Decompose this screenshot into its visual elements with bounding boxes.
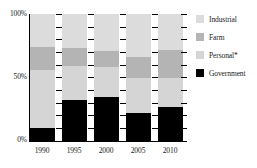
legend-swatch-industrial xyxy=(196,15,204,23)
gap-tick-4-8 xyxy=(181,115,187,116)
gap-tick-1-0 xyxy=(88,14,94,15)
legend-item-personal: Personal* xyxy=(196,46,257,64)
y-tick-label-50: 50% xyxy=(14,73,27,81)
gap-tick-3-0 xyxy=(152,14,158,15)
gap-tick-1-5 xyxy=(88,77,94,78)
legend-item-farm: Farm xyxy=(196,28,257,46)
gap-tick-2-2 xyxy=(120,39,126,40)
bar-segment-2010-personal xyxy=(158,78,183,107)
bar-segment-2005-farm xyxy=(126,57,151,77)
gap-tick-1-3 xyxy=(88,52,94,53)
y-axis-labels: 100% 50% 0% xyxy=(0,0,28,168)
bar-segment-1990-personal xyxy=(30,70,55,128)
gap-tick-4-1 xyxy=(181,27,187,28)
gap-tick-0-7 xyxy=(56,103,62,104)
gap-tick-3-5 xyxy=(152,77,158,78)
bar-segment-2010-industrial xyxy=(158,14,183,50)
gap-tick-2-7 xyxy=(120,103,126,104)
plot-area xyxy=(30,14,186,141)
bar-segment-2010-government xyxy=(158,107,183,141)
gap-tick-0-5 xyxy=(56,77,62,78)
gap-tick-0-4 xyxy=(56,65,62,66)
x-tick-label-1990: 1990 xyxy=(27,146,57,155)
x-tick-label-1995: 1995 xyxy=(59,146,89,155)
x-tick-label-2010: 2010 xyxy=(155,146,185,155)
x-axis-line xyxy=(29,141,187,142)
gap-tick-1-1 xyxy=(88,27,94,28)
gap-tick-2-4 xyxy=(120,65,126,66)
gap-tick-0-0 xyxy=(56,14,62,15)
legend-label-personal: Personal* xyxy=(209,51,238,60)
gap-tick-4-4 xyxy=(181,65,187,66)
gap-tick-2-5 xyxy=(120,77,126,78)
bar-segment-2005-personal xyxy=(126,78,151,114)
gap-tick-3-4 xyxy=(152,65,158,66)
gap-tick-1-4 xyxy=(88,65,94,66)
gap-tick-0-8 xyxy=(56,115,62,116)
gap-tick-3-1 xyxy=(152,27,158,28)
gap-tick-4-3 xyxy=(181,52,187,53)
gap-tick-4-0 xyxy=(181,14,187,15)
y-tick-label-100: 100% xyxy=(10,10,27,18)
bar-segment-1995-government xyxy=(62,100,87,141)
gap-tick-1-6 xyxy=(88,90,94,91)
gap-tick-3-9 xyxy=(152,128,158,129)
gap-tick-3-6 xyxy=(152,90,158,91)
gap-tick-1-2 xyxy=(88,39,94,40)
bar-segment-1995-farm xyxy=(62,48,87,66)
bar-segment-2000-personal xyxy=(94,67,119,96)
legend-swatch-government xyxy=(196,69,204,77)
legend-label-farm: Farm xyxy=(209,33,224,42)
bar-segment-1995-personal xyxy=(62,66,87,100)
bar-segment-2010-farm xyxy=(158,50,183,78)
gap-tick-3-3 xyxy=(152,52,158,53)
bar-segment-2005-industrial xyxy=(126,14,151,57)
bar-segment-1990-industrial xyxy=(30,14,55,47)
gap-tick-0-9 xyxy=(56,128,62,129)
gap-tick-0-1 xyxy=(56,27,62,28)
legend-swatch-farm xyxy=(196,33,204,41)
gap-tick-4-6 xyxy=(181,90,187,91)
bar-segment-2000-government xyxy=(94,97,119,141)
gap-tick-4-5 xyxy=(181,77,187,78)
bar-segment-1990-government xyxy=(30,128,55,141)
gap-tick-2-3 xyxy=(120,52,126,53)
gap-tick-4-7 xyxy=(181,103,187,104)
bar-segment-1990-farm xyxy=(30,47,55,70)
bar-segment-2005-government xyxy=(126,113,151,141)
bar-segment-1995-industrial xyxy=(62,14,87,48)
legend-label-industrial: Industrial xyxy=(209,15,237,24)
legend-item-government: Government xyxy=(196,64,257,82)
gap-tick-2-1 xyxy=(120,27,126,28)
gap-tick-4-9 xyxy=(181,128,187,129)
bar-segment-2000-farm xyxy=(94,51,119,68)
gap-tick-1-8 xyxy=(88,115,94,116)
gap-tick-0-6 xyxy=(56,90,62,91)
gap-tick-0-2 xyxy=(56,39,62,40)
gap-tick-2-9 xyxy=(120,128,126,129)
chart-legend: Industrial Farm Personal* Government xyxy=(196,10,257,82)
gap-tick-2-8 xyxy=(120,115,126,116)
gap-tick-4-2 xyxy=(181,39,187,40)
x-tick-label-2000: 2000 xyxy=(91,146,121,155)
legend-label-government: Government xyxy=(209,69,246,78)
gap-tick-2-0 xyxy=(120,14,126,15)
gap-tick-2-6 xyxy=(120,90,126,91)
gap-tick-3-7 xyxy=(152,103,158,104)
gap-tick-3-8 xyxy=(152,115,158,116)
stacked-bar-chart: 100% 50% 0% 1990 1995 2000 2005 2010 Ind… xyxy=(0,0,257,168)
legend-swatch-personal xyxy=(196,51,204,59)
gap-tick-1-9 xyxy=(88,128,94,129)
legend-item-industrial: Industrial xyxy=(196,10,257,28)
gap-tick-3-2 xyxy=(152,39,158,40)
x-tick-label-2005: 2005 xyxy=(123,146,153,155)
bar-segment-2000-industrial xyxy=(94,14,119,51)
gap-tick-0-3 xyxy=(56,52,62,53)
gap-tick-1-7 xyxy=(88,103,94,104)
y-tick-label-0: 0% xyxy=(17,136,27,144)
